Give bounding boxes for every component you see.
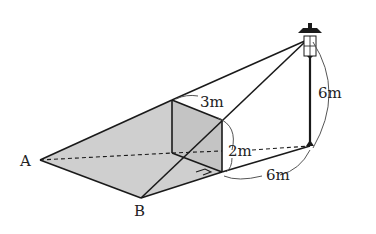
lamp-distance-label: 6m [266, 166, 290, 184]
lamp-height-label: 6m [318, 84, 342, 102]
shadow-diagram: A B 3m 2m 6m 6m [0, 0, 376, 234]
point-a-label: A [19, 152, 31, 170]
point-b-label: B [134, 202, 145, 220]
wall-height-label: 2m [228, 142, 252, 160]
wall-width-label: 3m [200, 93, 224, 111]
